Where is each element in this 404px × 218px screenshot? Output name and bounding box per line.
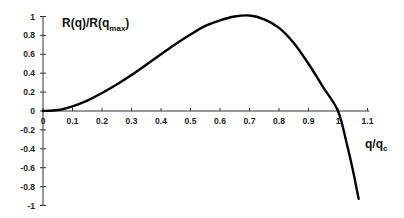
x-tick-label: 0.2 bbox=[96, 116, 108, 126]
y-tick-label: -0.6 bbox=[20, 163, 35, 173]
y-tick-label: -0.2 bbox=[20, 125, 35, 135]
y-tick-label: 0.4 bbox=[23, 68, 35, 78]
x-axis-title: q/qc bbox=[365, 137, 388, 153]
x-tick-label: 0.5 bbox=[185, 116, 197, 126]
x-tick-label: 0.8 bbox=[273, 116, 285, 126]
y-tick-label: 0.2 bbox=[23, 87, 35, 97]
y-tick-label: -0.4 bbox=[20, 144, 35, 154]
y-tick-label: 0 bbox=[30, 106, 35, 116]
y-axis-title: R(q)/R(qmax) bbox=[62, 16, 129, 33]
x-tick-label: 1.1 bbox=[362, 116, 374, 126]
x-tick-label: 0.6 bbox=[214, 116, 226, 126]
x-tick-label: 0.9 bbox=[303, 116, 315, 126]
y-tick-label: 0.6 bbox=[23, 49, 35, 59]
x-tick-label: 0.1 bbox=[67, 116, 79, 126]
y-tick-label: -0.8 bbox=[20, 182, 35, 192]
line-chart: 10.80.60.40.20-0.2-0.4-0.6-0.8-1 00.10.2… bbox=[0, 0, 404, 218]
x-tick-label: 0.3 bbox=[126, 116, 138, 126]
x-tick-label: 0.7 bbox=[244, 116, 256, 126]
x-tick-label: 0 bbox=[41, 116, 46, 126]
x-axis: 00.10.20.30.40.50.60.70.80.911.1 bbox=[41, 108, 374, 126]
data-line bbox=[43, 15, 359, 198]
y-tick-label: 1 bbox=[30, 12, 35, 22]
y-tick-label: -1 bbox=[27, 201, 35, 211]
x-tick-label: 0.4 bbox=[155, 116, 167, 126]
y-tick-label: 0.8 bbox=[23, 30, 35, 40]
